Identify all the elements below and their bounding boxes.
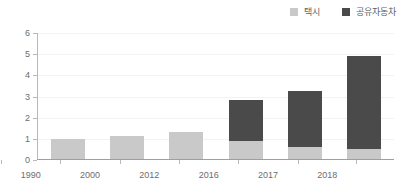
x-tick-mark xyxy=(298,160,299,164)
x-tick-label: 2018 xyxy=(298,170,357,184)
y-tick-label: 6 xyxy=(4,29,30,38)
bar-series-container xyxy=(38,33,394,159)
y-tick-label: 4 xyxy=(4,71,30,80)
bar-stack[interactable] xyxy=(288,91,322,159)
y-tick-label: 5 xyxy=(4,50,30,59)
x-tick-cell xyxy=(298,160,357,165)
stacked-bar-chart: 택시 공유자동차 0123456 19902000201220162017201… xyxy=(0,0,404,195)
x-tick-label: 2017 xyxy=(238,170,297,184)
bar-segment-taxi[interactable] xyxy=(51,139,85,159)
bar-segment-taxi[interactable] xyxy=(288,147,322,159)
x-tick-label: 2016 xyxy=(179,170,238,184)
y-tick-mark xyxy=(33,118,37,119)
bar-segment-taxi[interactable] xyxy=(110,136,144,159)
bar-group[interactable] xyxy=(157,33,216,159)
bar-stack[interactable] xyxy=(51,139,85,159)
legend-label-taxi: 택시 xyxy=(304,7,320,17)
bar-group[interactable] xyxy=(38,33,97,159)
y-tick-label: 1 xyxy=(4,135,30,144)
x-tick-mark xyxy=(60,160,61,164)
chart-legend: 택시 공유자동차 xyxy=(290,5,396,19)
y-tick-mark xyxy=(33,97,37,98)
bar-segment-taxi[interactable] xyxy=(169,132,203,159)
legend-swatch-taxi-icon xyxy=(290,8,298,16)
bar-group[interactable] xyxy=(216,33,275,159)
bar-group[interactable] xyxy=(97,33,156,159)
y-tick-mark xyxy=(33,54,37,55)
x-tick-mark xyxy=(120,160,121,164)
legend-label-shared-car: 공유자동차 xyxy=(356,7,396,17)
bar-stack[interactable] xyxy=(347,56,381,159)
y-tick-mark xyxy=(33,139,37,140)
x-axis-ticks xyxy=(1,160,357,165)
x-axis-labels: 199020002012201620172018 xyxy=(1,170,357,184)
bar-group[interactable] xyxy=(275,33,334,159)
x-tick-mark xyxy=(1,160,2,164)
legend-swatch-shared-car-icon xyxy=(342,8,350,16)
x-tick-label: 2012 xyxy=(120,170,179,184)
bar-stack[interactable] xyxy=(110,136,144,159)
bar-segment-shared-car[interactable] xyxy=(347,56,381,148)
y-tick-mark xyxy=(33,33,37,34)
x-tick-label: 1990 xyxy=(1,170,60,184)
x-tick-cell xyxy=(1,160,60,165)
y-tick-label: 2 xyxy=(4,114,30,123)
bar-segment-taxi[interactable] xyxy=(347,149,381,160)
x-tick-mark xyxy=(356,160,357,164)
x-tick-cell xyxy=(60,160,119,165)
bar-stack[interactable] xyxy=(169,132,203,159)
x-tick-cell xyxy=(179,160,238,165)
x-tick-cell xyxy=(238,160,297,165)
legend-item-shared-car[interactable]: 공유자동차 xyxy=(342,5,396,19)
x-tick-cell xyxy=(120,160,179,165)
y-axis-labels: 0123456 xyxy=(0,33,30,160)
bar-segment-shared-car[interactable] xyxy=(288,91,322,148)
legend-item-taxi[interactable]: 택시 xyxy=(290,5,320,19)
bar-segment-taxi[interactable] xyxy=(229,141,263,159)
x-tick-mark xyxy=(238,160,239,164)
bar-group[interactable] xyxy=(335,33,394,159)
bar-stack[interactable] xyxy=(229,100,263,159)
bar-segment-shared-car[interactable] xyxy=(229,100,263,141)
y-tick-label: 3 xyxy=(4,93,30,102)
x-tick-label: 2000 xyxy=(60,170,119,184)
x-tick-mark xyxy=(179,160,180,164)
y-tick-mark xyxy=(33,75,37,76)
plot-area xyxy=(37,33,394,160)
